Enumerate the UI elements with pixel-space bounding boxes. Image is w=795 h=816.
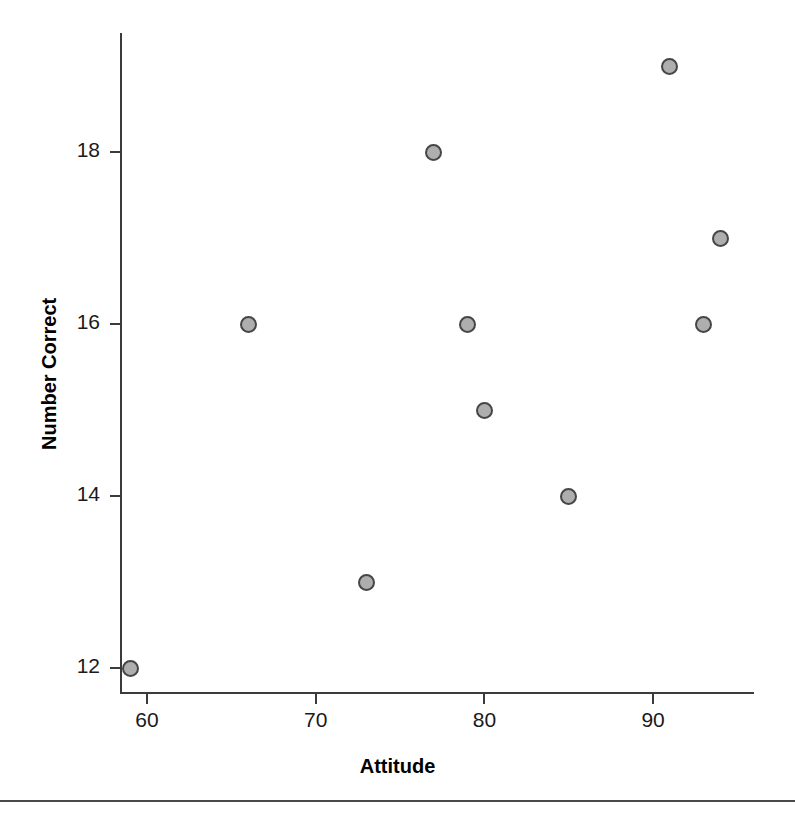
x-axis-title: Attitude [0,755,795,778]
scatter-plot-figure: 12141618 60708090 Number Correct Attitud… [0,0,795,816]
data-point [712,230,729,247]
data-point [425,144,442,161]
x-tick-mark [652,693,654,704]
y-tick-mark [110,495,121,497]
data-point [661,58,678,75]
y-axis-title: Number Correct [38,298,61,450]
data-point [358,574,375,591]
data-point [560,488,577,505]
data-point [122,660,139,677]
x-tick-label: 60 [117,708,177,732]
data-point [476,402,493,419]
x-tick-mark [483,693,485,704]
footer-divider [0,800,795,802]
y-tick-mark [110,323,121,325]
y-tick-mark [110,667,121,669]
x-axis-line [120,692,754,694]
x-tick-label: 70 [286,708,346,732]
data-point [695,316,712,333]
data-point [240,316,257,333]
x-tick-mark [315,693,317,704]
y-tick-label: 12 [40,654,100,678]
y-tick-mark [110,151,121,153]
data-point [459,316,476,333]
x-tick-label: 80 [454,708,514,732]
y-axis-line [120,33,122,693]
y-tick-label: 18 [40,138,100,162]
x-tick-mark [146,693,148,704]
y-tick-label: 14 [40,482,100,506]
x-tick-label: 90 [623,708,683,732]
plot-area: 12141618 60708090 Number Correct Attitud… [0,0,795,816]
